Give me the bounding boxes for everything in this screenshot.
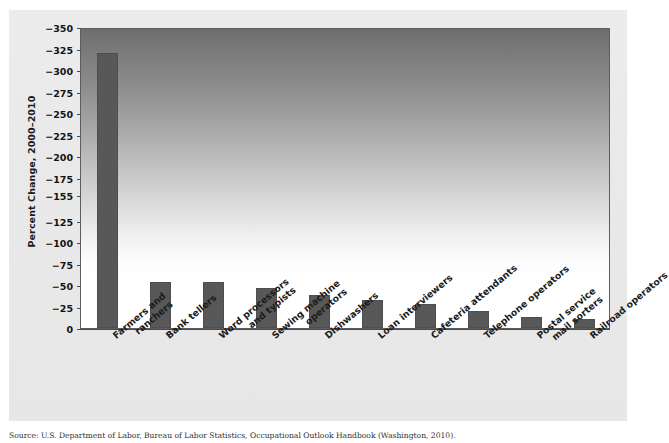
x-axis-category-labels: Farmers andranchersBank tellersWord proc… [80, 331, 625, 419]
y-axis-tick-label: −100 [27, 238, 73, 249]
y-axis-tick-label: −175 [27, 173, 73, 184]
y-axis-tick-label: −155 [27, 190, 73, 201]
bar [521, 317, 542, 328]
y-axis-tick-label: −300 [27, 66, 73, 77]
y-axis-tick-label: 0 [27, 324, 73, 335]
y-axis-tick-label: −50 [27, 281, 73, 292]
y-axis-tick-label: −125 [27, 216, 73, 227]
y-axis-tick-label: −325 [27, 44, 73, 55]
y-axis-tick-label: −250 [27, 109, 73, 120]
y-axis-tick-label: −350 [27, 23, 73, 34]
plot-area [80, 28, 610, 329]
y-axis-tick-label: −75 [27, 259, 73, 270]
bar [468, 311, 489, 328]
y-axis-tick-label: −25 [27, 302, 73, 313]
x-axis-baseline [80, 329, 610, 330]
source-caption: Source: U.S. Department of Labor, Bureau… [9, 431, 629, 440]
y-axis-tick-label: −225 [27, 130, 73, 141]
y-axis-tick-label: −275 [27, 87, 73, 98]
chart-figure: Percent Change, 2000–2010 −350−325−300−2… [9, 10, 627, 421]
y-axis-tick-labels: −350−325−300−275−250−225−200−175−155−125… [15, 10, 73, 421]
bar [97, 53, 118, 328]
y-axis-tick-label: −200 [27, 152, 73, 163]
